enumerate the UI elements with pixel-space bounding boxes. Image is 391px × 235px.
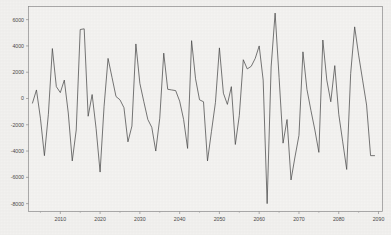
- x-tick-label: 2090: [373, 216, 385, 222]
- y-tick-label: 0: [21, 95, 24, 101]
- x-tick-label: 2070: [293, 216, 305, 222]
- x-tick-label: 2040: [174, 216, 186, 222]
- x-tick-label: 2020: [94, 216, 106, 222]
- x-tick-label: 2030: [134, 216, 146, 222]
- x-tick-label: 2050: [214, 216, 226, 222]
- y-tick-label: 4000: [12, 43, 24, 49]
- y-tick-label: -4000: [11, 148, 24, 154]
- x-tick-label: 2080: [333, 216, 345, 222]
- x-tick-labels: 201020202030204020502060207020802090: [55, 216, 385, 222]
- y-tick-label: 6000: [12, 17, 24, 23]
- y-tick-label: -8000: [11, 201, 24, 207]
- plot-frame: [29, 7, 383, 212]
- x-tick-label: 2010: [55, 216, 67, 222]
- x-tick-label: 2060: [253, 216, 265, 222]
- y-tick-label: -6000: [11, 174, 24, 180]
- chart-figure: 6000400020000-2000-4000-6000-8000 201020…: [0, 0, 391, 235]
- y-tick-label: -2000: [11, 122, 24, 128]
- y-tick-label: 2000: [12, 69, 24, 75]
- line-chart-plot: 6000400020000-2000-4000-6000-8000 201020…: [0, 0, 391, 235]
